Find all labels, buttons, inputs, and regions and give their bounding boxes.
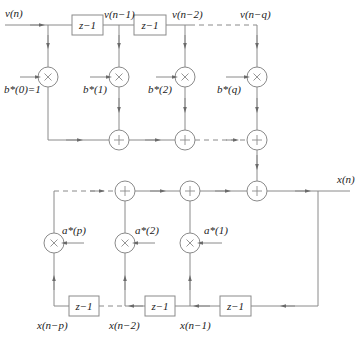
adder-bottom-2: [180, 181, 200, 201]
delay-label: z−1: [140, 19, 158, 31]
tap-label-v-n-q: v(n−q): [240, 8, 271, 21]
multiplier-bq: [247, 67, 267, 87]
adder-top-2: [175, 130, 195, 150]
adder-bottom-p: [115, 181, 135, 201]
coef-a1: a*(1): [204, 224, 228, 237]
adder-bottom-main: [247, 181, 267, 201]
delay-label: z−1: [226, 300, 244, 312]
coef-bq: b*(q): [217, 83, 241, 96]
tap-label-x-n-2: x(n−2): [108, 319, 140, 332]
multiplier-ap: [44, 233, 64, 253]
tap-label-v-n: v(n): [5, 7, 23, 20]
tap-label-v-n-2: v(n−2): [172, 8, 203, 21]
delay-box-bottom-2: z−1: [145, 296, 175, 316]
tap-label-x-n-p: x(n−p): [36, 319, 68, 332]
arma-filter-diagram: z−1 z−1 v(n) v(n−1) v(n−2) v(n−q): [0, 0, 362, 338]
multiplier-b2: [175, 67, 195, 87]
multiplier-b1: [109, 67, 129, 87]
multiplier-a2: [115, 233, 135, 253]
multiplier-a1: [180, 233, 200, 253]
adder-top-3: [247, 130, 267, 150]
delay-box-top-1: z−1: [72, 15, 103, 35]
output-label: x(n): [336, 173, 355, 186]
adder-top-1: [109, 130, 129, 150]
delay-box-bottom-1: z−1: [220, 296, 251, 316]
tap-label-x-n-1: x(n−1): [179, 319, 211, 332]
coef-b1: b*(1): [83, 83, 107, 96]
delay-label: z−1: [150, 300, 168, 312]
delay-label: z−1: [78, 19, 96, 31]
multiplier-b0: [38, 67, 58, 87]
ar-section: x(n): [36, 173, 355, 332]
delay-box-bottom-p: z−1: [69, 296, 99, 316]
coef-a2: a*(2): [135, 224, 159, 237]
delay-label: z−1: [74, 300, 92, 312]
tap-label-v-n-1: v(n−1): [104, 8, 135, 21]
coef-b0: b*(0)=1: [4, 83, 41, 96]
ma-section: z−1 z−1 v(n) v(n−1) v(n−2) v(n−q): [4, 7, 271, 181]
coef-ap: a*(p): [62, 224, 86, 237]
delay-box-top-2: z−1: [134, 15, 166, 35]
coef-b2: b*(2): [148, 83, 172, 96]
